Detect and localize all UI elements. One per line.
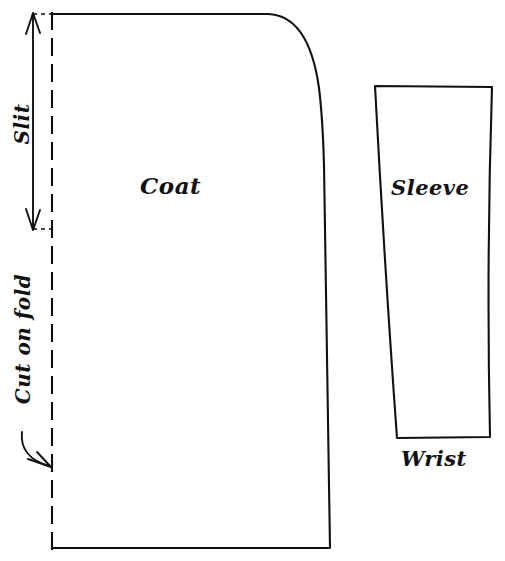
sleeve-label: Sleeve bbox=[391, 175, 469, 200]
coat-outline-path bbox=[52, 14, 330, 548]
sewing-pattern-diagram: Coat Sleeve Wrist Slit Cut on fold bbox=[0, 0, 505, 561]
wrist-label: Wrist bbox=[401, 446, 467, 471]
coat-label: Coat bbox=[140, 172, 201, 199]
sleeve-outline-path bbox=[375, 86, 492, 438]
pattern-linework bbox=[0, 0, 505, 561]
cut-on-fold-curved-arrow bbox=[22, 432, 51, 467]
cut-on-fold-label: Cut on fold bbox=[11, 254, 35, 424]
slit-label: Slit bbox=[10, 89, 34, 159]
